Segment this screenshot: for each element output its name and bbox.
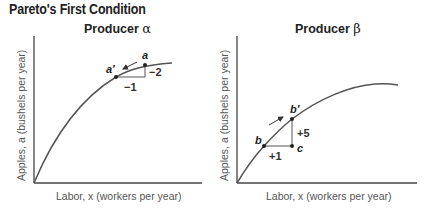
label-b-prime: b′ xyxy=(290,103,301,115)
arrow-icon-beta xyxy=(269,117,283,125)
label-dx-alpha: −1 xyxy=(124,81,137,93)
point-c xyxy=(290,144,294,148)
label-c: c xyxy=(297,142,303,154)
label-a: a xyxy=(142,49,148,61)
point-a-prime xyxy=(114,75,118,79)
panel-alpha: a a′ −2 −1 xyxy=(34,36,202,183)
label-dy-beta: +5 xyxy=(297,127,310,139)
panel-beta: b b′ c +5 +1 xyxy=(237,36,417,183)
label-b: b xyxy=(255,134,262,146)
label-dy-alpha: −2 xyxy=(149,66,162,78)
arrow-icon-alpha xyxy=(123,62,137,69)
label-dx-beta: +1 xyxy=(269,150,282,162)
diagram-canvas: a a′ −2 −1 b b′ c +5 +1 xyxy=(0,0,434,213)
point-b-prime xyxy=(290,117,294,121)
point-b xyxy=(262,144,266,148)
point-a xyxy=(143,63,147,67)
production-curve-alpha xyxy=(34,63,172,183)
label-a-prime: a′ xyxy=(106,63,116,75)
